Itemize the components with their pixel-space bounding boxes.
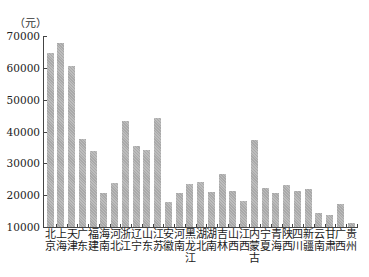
bar-四川 — [294, 191, 301, 227]
bar-吉林 — [219, 174, 226, 227]
y-tick-label: 60000 — [0, 63, 40, 73]
bar-甘肃 — [326, 215, 333, 227]
bar-河南 — [176, 193, 183, 227]
bar-陕西 — [283, 185, 290, 227]
bar-湖南 — [208, 192, 215, 227]
bar-黑龙江 — [186, 184, 193, 227]
bar-江西 — [240, 201, 247, 227]
bar-山东 — [143, 150, 150, 227]
bar-江苏 — [154, 118, 161, 227]
x-tick-mark — [357, 224, 358, 227]
y-tick-label: 50000 — [0, 95, 40, 105]
bar-河北 — [111, 183, 118, 227]
bar-广西 — [337, 204, 344, 227]
y-tick-label: 40000 — [0, 127, 40, 137]
bar-青海 — [272, 193, 279, 227]
bar-山西 — [229, 191, 236, 227]
bar-北京 — [47, 53, 54, 227]
y-tick-label: 70000 — [0, 31, 40, 41]
bar-福建 — [90, 151, 97, 227]
y-axis-unit-label: （元） — [14, 14, 47, 30]
bar-贵州 — [348, 223, 355, 227]
y-tick-label: 30000 — [0, 158, 40, 168]
y-tick-label: 10000 — [0, 222, 40, 232]
y-tick-label: 20000 — [0, 190, 40, 200]
bar-宁夏 — [262, 188, 269, 227]
bar-chart: （元） 70000600005000040000300002000010000 … — [0, 0, 369, 277]
bar-新疆 — [305, 189, 312, 227]
bar-浙江 — [122, 121, 129, 227]
bar-云南 — [315, 213, 322, 227]
x-tick-label: 贵州 — [346, 229, 358, 253]
bar-上海 — [57, 43, 64, 227]
bar-广东 — [79, 139, 86, 227]
bar-内蒙古 — [251, 140, 258, 227]
bar-辽宁 — [133, 146, 140, 227]
y-tick-mark — [43, 36, 47, 37]
bar-湖北 — [197, 182, 204, 227]
bar-天津 — [68, 66, 75, 227]
bar-海南 — [100, 193, 107, 227]
bar-安徽 — [165, 202, 172, 227]
